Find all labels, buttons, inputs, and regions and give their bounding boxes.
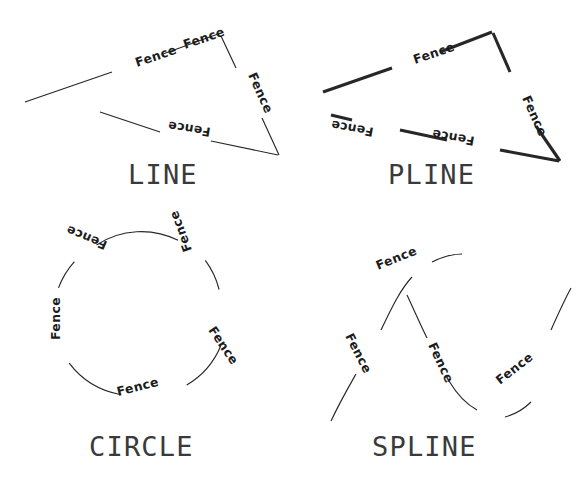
pline-fence-label: Fence <box>431 127 476 149</box>
circle-segment <box>187 346 221 385</box>
line-caption: LINE <box>128 159 198 190</box>
pline-fence-label: Fence <box>411 39 456 67</box>
line-segment <box>100 112 160 132</box>
pline-caption: PLINE <box>388 159 475 190</box>
spline-segment <box>432 254 462 262</box>
spline-segment <box>381 277 412 330</box>
panel-group: FenceFenceFenceFenceLINEFenceFenceFenceF… <box>25 24 571 462</box>
spline-fence-label: Fence <box>342 331 375 376</box>
pline-fence-label: Fence <box>330 118 375 140</box>
line-fence-label: Fence <box>133 42 178 70</box>
linetype-reference-canvas: FenceFenceFenceFenceLINEFenceFenceFenceF… <box>0 0 586 484</box>
line-segment <box>262 118 279 155</box>
panel-pline: FenceFenceFenceFencePLINE <box>323 32 560 190</box>
pline-fence-label: Fence <box>519 93 550 138</box>
circle-segment <box>97 232 179 245</box>
circle-segment <box>205 260 219 289</box>
line-fence-label: Fence <box>245 70 276 115</box>
pline-segment <box>323 68 392 92</box>
spline-geometry <box>331 254 571 421</box>
circle-segment <box>69 363 120 394</box>
circle-segment <box>59 262 75 288</box>
panel-circle: FenceFenceFenceFenceFenceCIRCLE <box>48 209 242 462</box>
panel-spline: FenceFenceFenceFenceSPLINE <box>331 243 571 462</box>
pline-segment <box>493 33 510 72</box>
line-fence-label: Fence <box>167 118 212 140</box>
line-segment <box>221 36 236 68</box>
spline-fence-label: Fence <box>493 349 536 387</box>
line-fence-label: Fence <box>181 24 226 52</box>
line-segment <box>25 72 112 102</box>
spline-segment <box>551 288 571 330</box>
spline-segment <box>407 295 427 338</box>
spline-segment <box>331 374 356 421</box>
spline-segment <box>505 402 531 417</box>
circle-fence-label: Fence <box>48 297 63 340</box>
circle-geometry <box>59 232 221 395</box>
circle-fence-label: Fence <box>64 222 109 253</box>
line-segment <box>211 141 278 155</box>
diagram-sheet: FenceFenceFenceFenceLINEFenceFenceFenceF… <box>0 0 586 484</box>
panel-line: FenceFenceFenceFenceLINE <box>25 24 279 190</box>
circle-caption: CIRCLE <box>89 431 194 462</box>
circle-fence-label: Fence <box>166 209 195 254</box>
spline-fence-label: Fence <box>425 340 457 385</box>
pline-segment <box>500 150 559 161</box>
circle-fence-label: Fence <box>206 323 242 367</box>
circle-fence-label: Fence <box>115 374 160 399</box>
spline-fence-label: Fence <box>374 243 419 273</box>
spline-caption: SPLINE <box>372 431 477 462</box>
spline-segment <box>449 381 477 410</box>
